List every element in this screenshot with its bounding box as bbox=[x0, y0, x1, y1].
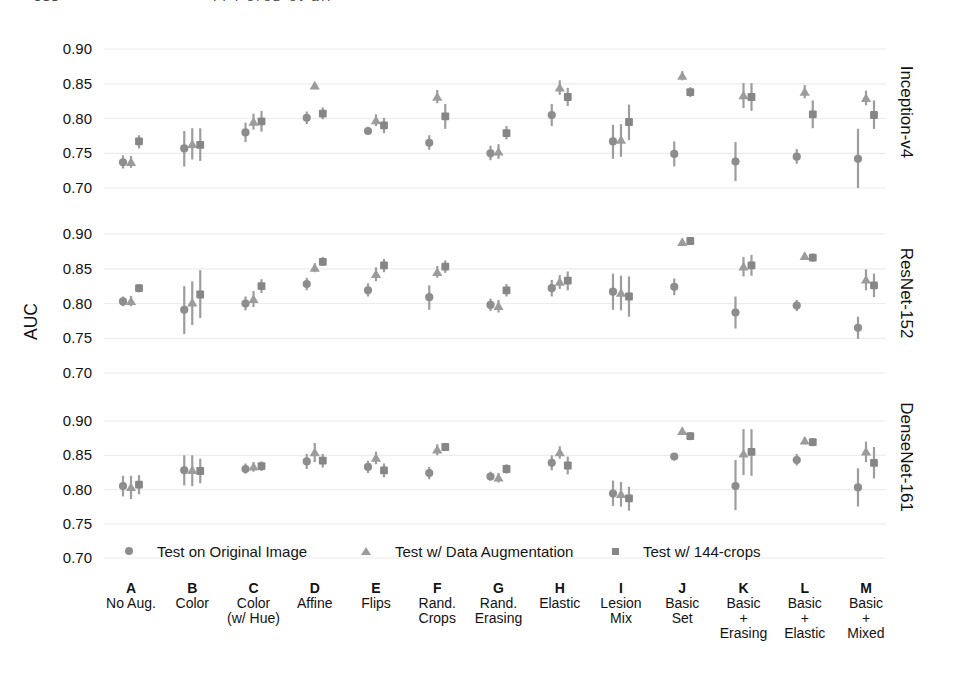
legend-item-square: Test w/ 144-crops bbox=[612, 543, 761, 559]
triangle-marker bbox=[861, 275, 871, 284]
row-label-resnet-152: ResNet-152 bbox=[896, 248, 916, 339]
triangle-marker bbox=[677, 426, 687, 435]
circle-marker bbox=[119, 482, 127, 490]
square-marker bbox=[748, 93, 756, 101]
square-marker bbox=[319, 258, 327, 266]
category-name-line: + bbox=[818, 611, 914, 626]
square-marker bbox=[380, 261, 388, 269]
triangle-marker bbox=[187, 298, 197, 307]
y-tick-label: 0.90 bbox=[46, 412, 92, 430]
circle-marker bbox=[854, 324, 862, 332]
square-marker bbox=[503, 129, 511, 137]
circle-marker bbox=[670, 453, 678, 461]
square-marker bbox=[258, 282, 266, 290]
triangle-marker bbox=[738, 262, 748, 271]
category-name-line: Erasing bbox=[451, 611, 547, 626]
triangle-marker bbox=[555, 277, 565, 286]
circle-marker bbox=[180, 306, 188, 314]
square-marker bbox=[809, 110, 817, 118]
square-marker bbox=[503, 465, 511, 473]
y-tick-label: 0.75 bbox=[46, 144, 92, 162]
triangle-marker bbox=[861, 447, 871, 456]
circle-marker bbox=[180, 144, 188, 152]
circle-icon bbox=[125, 547, 133, 555]
square-marker bbox=[135, 481, 143, 489]
circle-marker bbox=[731, 482, 739, 490]
square-marker bbox=[686, 432, 694, 440]
triangle-marker bbox=[187, 465, 197, 474]
square-marker bbox=[135, 284, 143, 292]
circle-marker bbox=[241, 465, 249, 473]
circle-marker bbox=[303, 457, 311, 465]
chart-canvas bbox=[0, 0, 954, 675]
circle-marker bbox=[241, 128, 249, 136]
circle-marker bbox=[364, 127, 372, 135]
triangle-marker bbox=[432, 92, 442, 101]
triangle-marker bbox=[126, 482, 136, 491]
square-marker bbox=[748, 261, 756, 269]
circle-marker bbox=[303, 114, 311, 122]
triangle-marker bbox=[432, 445, 442, 454]
y-tick-label: 0.75 bbox=[46, 515, 92, 533]
square-marker bbox=[441, 263, 449, 271]
circle-marker bbox=[364, 286, 372, 294]
y-axis-title: AUC bbox=[21, 300, 42, 344]
y-tick-label: 0.80 bbox=[46, 481, 92, 499]
y-tick-label: 0.75 bbox=[46, 329, 92, 347]
triangle-marker bbox=[800, 251, 810, 260]
y-tick-label: 0.85 bbox=[46, 260, 92, 278]
triangle-marker bbox=[371, 269, 381, 278]
legend-label: Test on Original Image bbox=[157, 543, 307, 560]
triangle-marker bbox=[738, 91, 748, 100]
circle-marker bbox=[609, 490, 617, 498]
circle-marker bbox=[731, 158, 739, 166]
triangle-marker bbox=[371, 116, 381, 125]
triangle-marker bbox=[616, 489, 626, 498]
square-marker bbox=[564, 93, 572, 101]
triangle-marker bbox=[126, 157, 136, 166]
circle-marker bbox=[425, 293, 433, 301]
category-letter: M bbox=[818, 581, 914, 596]
triangle-marker bbox=[310, 263, 320, 272]
square-marker bbox=[870, 459, 878, 467]
y-tick-label: 0.90 bbox=[46, 40, 92, 58]
square-marker bbox=[441, 113, 449, 121]
square-marker bbox=[503, 286, 511, 294]
circle-marker bbox=[486, 301, 494, 309]
square-marker bbox=[196, 467, 204, 475]
y-tick-label: 0.80 bbox=[46, 295, 92, 313]
triangle-marker bbox=[310, 81, 320, 90]
triangle-marker bbox=[738, 449, 748, 458]
y-tick-label: 0.85 bbox=[46, 75, 92, 93]
circle-marker bbox=[303, 280, 311, 288]
triangle-marker bbox=[126, 296, 136, 305]
circle-marker bbox=[731, 308, 739, 316]
circle-marker bbox=[486, 472, 494, 480]
circle-marker bbox=[548, 284, 556, 292]
circle-marker bbox=[854, 483, 862, 491]
circle-marker bbox=[241, 299, 249, 307]
legend-label: Test w/ 144-crops bbox=[643, 543, 761, 560]
circle-marker bbox=[670, 150, 678, 158]
square-marker bbox=[748, 448, 756, 456]
y-tick-label: 0.70 bbox=[46, 364, 92, 382]
square-marker bbox=[625, 118, 633, 126]
square-marker bbox=[625, 293, 633, 301]
triangle-marker bbox=[616, 288, 626, 297]
square-marker bbox=[870, 111, 878, 119]
square-marker bbox=[564, 462, 572, 470]
square-marker bbox=[196, 291, 204, 299]
square-marker bbox=[380, 122, 388, 130]
circle-marker bbox=[793, 153, 801, 161]
triangle-marker bbox=[555, 448, 565, 457]
triangle-marker bbox=[800, 436, 810, 445]
circle-marker bbox=[180, 466, 188, 474]
y-tick-label: 0.70 bbox=[46, 549, 92, 567]
square-marker bbox=[625, 495, 633, 503]
triangle-marker bbox=[371, 453, 381, 462]
circle-marker bbox=[670, 283, 678, 291]
circle-marker bbox=[119, 158, 127, 166]
circle-marker bbox=[119, 297, 127, 305]
square-marker bbox=[441, 443, 449, 451]
category-name-line: Mixed bbox=[818, 626, 914, 641]
